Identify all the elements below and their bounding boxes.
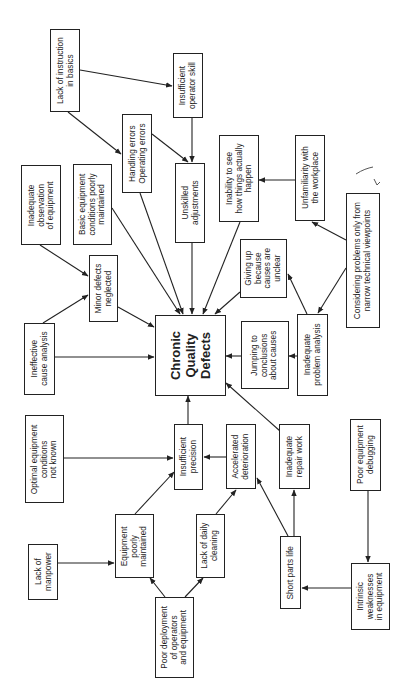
node-optimal-conditions-not-known: Optimal equipment conditions not known <box>25 415 64 503</box>
node-label: Jumping to conclusions about causes <box>251 330 280 379</box>
node-equipment-poorly-maintained: Equipment poorly maintained <box>115 514 154 578</box>
node-label: Considering problems only from narrow te… <box>353 202 372 319</box>
node-jumping-to-conclusions: Jumping to conclusions about causes <box>241 321 289 389</box>
node-label: Insufficient operator skill <box>178 62 197 109</box>
node-inadequate-repair-work: Inadequate repair work <box>279 424 310 489</box>
node-label: Short parts life <box>286 546 296 600</box>
node-intrinsic-weaknesses: Intrinsic weaknesses in equipment <box>351 563 390 630</box>
node-minor-defects-neglected: Minor defects neglected <box>89 255 118 322</box>
node-insufficient-precision: Insufficient precision <box>174 424 203 490</box>
node-label: Poor deployment of operators and equipme… <box>160 606 189 669</box>
node-chronic-quality-defects: Chronic Quality Defects <box>155 315 226 396</box>
node-giving-up: Giving up because causes are unclear <box>240 239 287 298</box>
node-lack-of-manpower: Lack of manpower <box>28 544 58 600</box>
node-label: Basic equipment conditions poorly mainta… <box>78 173 107 235</box>
node-unskilled-adjustments: Unskilled adjustments <box>175 163 205 243</box>
node-label: Unfamiliarity with the workplace <box>300 147 319 210</box>
node-label: Ineffective cause analysis <box>30 332 49 386</box>
node-label: Lack of manpower <box>33 553 52 592</box>
node-ineffective-cause-analysis: Ineffective cause analysis <box>24 323 55 395</box>
cause-effect-diagram: Lack of instruction in basics Insufficie… <box>0 0 410 695</box>
node-handling-errors: Handling errors Operating errors <box>122 114 152 193</box>
node-label: Poor equipment debugging <box>356 426 375 485</box>
node-inadequate-problem-analysis: Inadequate problem analysis <box>297 314 328 396</box>
node-label: Equipment poorly maintained <box>120 526 149 567</box>
node-insufficient-operator-skill: Insufficient operator skill <box>173 53 203 118</box>
node-label: Inability to see how things actually hap… <box>225 143 254 213</box>
node-poor-equipment-debugging: Poor equipment debugging <box>350 419 381 491</box>
node-label: Giving up because causes are unclear <box>244 248 282 289</box>
check-mark-icon <box>352 165 382 189</box>
node-label: Inadequate repair work <box>285 436 304 478</box>
node-label: Minor defects neglected <box>94 264 113 314</box>
node-label: Intrinsic weaknesses in equipment <box>356 573 385 621</box>
node-short-parts-life: Short parts life <box>280 536 301 609</box>
node-label: Lack of daily cleaning <box>201 523 220 569</box>
node-basic-equipment-conditions: Basic equipment conditions poorly mainta… <box>73 164 112 245</box>
node-label: Insufficient precision <box>179 437 198 477</box>
node-label: Unskilled adjustments <box>180 181 199 226</box>
node-unfamiliarity-with-workplace: Unfamiliarity with the workplace <box>295 135 325 221</box>
node-label: Inadequate observation of equipment <box>27 181 56 229</box>
node-label: Inadequate problem analysis <box>303 324 322 386</box>
node-label: Accelerated deterioration <box>231 433 250 479</box>
node-poor-deployment: Poor deployment of operators and equipme… <box>155 597 194 678</box>
node-narrow-technical-viewpoints: Considering problems only from narrow te… <box>346 193 380 328</box>
node-label: Optimal equipment conditions not known <box>30 424 59 494</box>
node-inability-to-see: Inability to see how things actually hap… <box>219 135 259 222</box>
node-label: Chronic Quality Defects <box>168 331 213 380</box>
node-accelerated-deterioration: Accelerated deterioration <box>226 424 256 489</box>
node-lack-of-daily-cleaning: Lack of daily cleaning <box>196 514 225 578</box>
node-label: Handling errors Operating errors <box>127 123 146 183</box>
node-label: Lack of instruction in basics <box>55 37 74 104</box>
node-inadequate-observation: Inadequate observation of equipment <box>21 165 61 245</box>
node-lack-of-instruction: Lack of instruction in basics <box>50 29 80 112</box>
